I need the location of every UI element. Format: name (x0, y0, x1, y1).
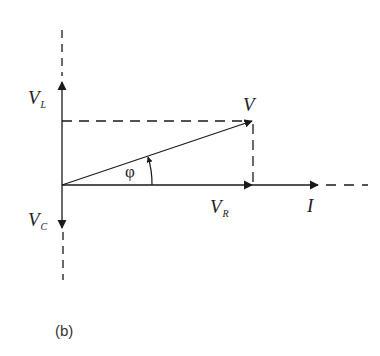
label-phi: φ (125, 163, 135, 180)
label-vl: VL (28, 88, 46, 110)
figure-caption: (b) (55, 322, 73, 339)
v-resultant-phasor (62, 121, 252, 185)
label-vc: VC (28, 210, 47, 232)
label-i: I (307, 196, 313, 215)
label-vr: VR (210, 197, 229, 219)
phasor-diagram (0, 0, 380, 356)
label-v: V (243, 95, 255, 114)
phase-angle-arc (148, 157, 152, 185)
